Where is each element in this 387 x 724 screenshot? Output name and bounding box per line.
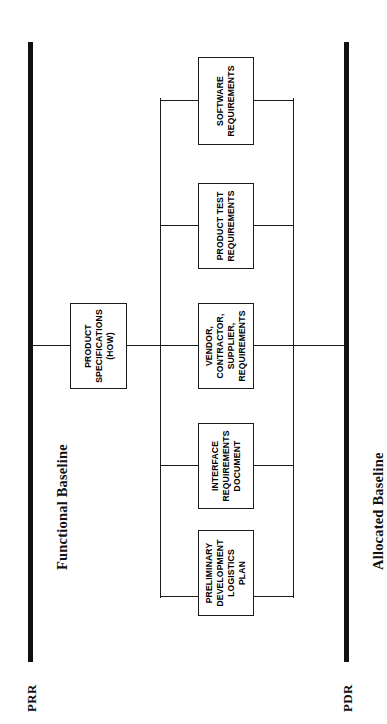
connector-stub-left-software (160, 100, 198, 101)
node-interface-requirements-document-label: INTERFACE REQUIREMENTS DOCUMENT (210, 430, 243, 501)
connector-stub-left-product-test (160, 225, 198, 226)
node-interface-requirements-document[interactable]: INTERFACE REQUIREMENTS DOCUMENT (198, 423, 254, 509)
node-software-requirements[interactable]: SOFTWARE REQUIREMENTS (198, 57, 254, 145)
connector-stub-right-preliminary (253, 596, 293, 597)
node-vendor-contractor-supplier-requirements-label: VENDOR, CONTRACTOR, SUPPLIER, REQUIREMEN… (204, 310, 248, 381)
connector-stub-left-preliminary (160, 596, 198, 597)
allocated-baseline-caption: Allocated Baseline (370, 452, 387, 570)
connector-bus-to-pdr (253, 345, 345, 346)
node-preliminary-development-logistics-plan[interactable]: PRELIMINARY DEVELOPMENT LOGISTICS PLAN (198, 530, 254, 616)
connector-stub-right-software (253, 100, 293, 101)
connector-stub-right-product-test (253, 225, 293, 226)
allocated-baseline-bar (344, 42, 349, 662)
functional-baseline-bar (28, 42, 33, 662)
connector-right-collection-bus (293, 98, 294, 598)
connector-stub-right-interface (253, 465, 293, 466)
node-preliminary-development-logistics-plan-label: PRELIMINARY DEVELOPMENT LOGISTICS PLAN (204, 539, 248, 606)
pdr-milestone-label: PDR (340, 684, 356, 712)
connector-stub-left-interface (160, 465, 198, 466)
node-product-test-requirements-label: PRODUCT TEST REQUIREMENTS (215, 190, 237, 261)
node-product-specifications-label: PRODUCT SPECIFICATIONS (HOW) (82, 309, 115, 383)
node-software-requirements-label: SOFTWARE REQUIREMENTS (215, 65, 237, 136)
connector-product-spec-to-bus (126, 345, 198, 346)
connector-left-distribution-bus (160, 98, 161, 598)
prr-milestone-label: PRR (24, 684, 40, 712)
connector-prr-to-product-spec (30, 345, 72, 346)
node-vendor-contractor-supplier-requirements[interactable]: VENDOR, CONTRACTOR, SUPPLIER, REQUIREMEN… (198, 303, 254, 389)
node-product-specifications[interactable]: PRODUCT SPECIFICATIONS (HOW) (70, 303, 127, 389)
functional-baseline-caption: Functional Baseline (54, 444, 71, 570)
node-product-test-requirements[interactable]: PRODUCT TEST REQUIREMENTS (198, 183, 254, 269)
